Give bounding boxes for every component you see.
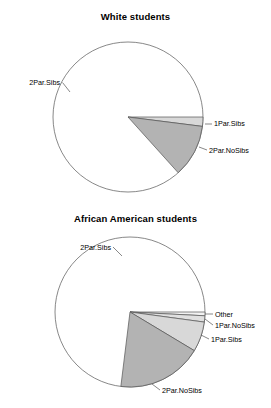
pie-african-american-students: 2Par.Sibs Other 1Par.NoSibs 1Par.Sibs 2P… [0,204,271,408]
pie-label-2par-sibs: 2Par.Sibs [80,243,111,252]
pie-label-1par-sibs: 1Par.Sibs [211,335,242,344]
pie-label-2par-sibs: 2Par.Sibs [29,78,60,87]
pie-label-1par-nosibs: 1Par.NoSibs [215,321,255,330]
pie-label-other: Other [215,310,234,319]
leader-line-2par-nosibs [199,147,207,150]
leader-line-1par-sibs [201,335,209,339]
chart-panel-white-students: White students 2Par.Sibs 1Par.Sibs 2Par.… [0,0,271,204]
pie-label-1par-sibs: 1Par.Sibs [214,119,245,128]
leader-line-2par-nosibs [152,384,160,390]
pie-chart-figure: White students 2Par.Sibs 1Par.Sibs 2Par.… [0,0,271,408]
pie-label-2par-nosibs: 2Par.NoSibs [162,386,202,395]
pie-white-students: 2Par.Sibs 1Par.Sibs 2Par.NoSibs [0,0,271,204]
leader-line-1par-nosibs [205,319,213,325]
chart-panel-african-american-students: African American students 2Par.Sibs Othe… [0,204,271,408]
pie-label-2par-nosibs: 2Par.NoSibs [209,146,249,155]
